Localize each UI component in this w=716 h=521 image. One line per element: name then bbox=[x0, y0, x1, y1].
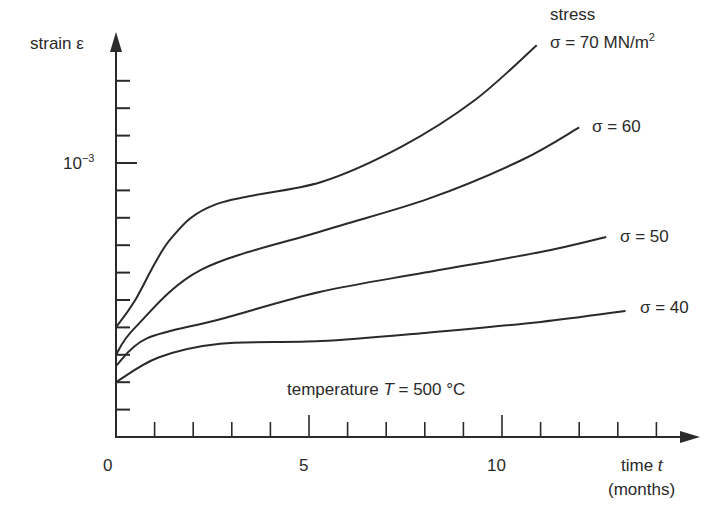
x-axis-arrow-icon bbox=[680, 431, 700, 443]
y-axis-label: strain ε bbox=[30, 34, 84, 54]
y-ticks bbox=[116, 81, 137, 410]
x-tick-label-5: 5 bbox=[299, 456, 308, 476]
creep-curve-1 bbox=[116, 127, 579, 354]
legend-sigma-50: σ = 50 bbox=[620, 227, 669, 247]
y-axis-arrow-icon bbox=[110, 32, 122, 52]
x-axis-label-text: time bbox=[621, 456, 658, 475]
y-tick-base: 10 bbox=[63, 154, 82, 173]
temp-prefix: temperature bbox=[287, 380, 383, 399]
temp-suffix: = 500 °C bbox=[394, 380, 466, 399]
curves bbox=[116, 45, 626, 382]
x-axis-var: t bbox=[658, 456, 663, 475]
legend-sigma-70: σ = 70 MN/m2 bbox=[550, 31, 655, 53]
temp-var: T bbox=[383, 380, 393, 399]
x-axis-unit: (months) bbox=[608, 480, 675, 500]
stress-heading: stress bbox=[550, 5, 595, 25]
sigma-70-text: σ = 70 MN/m bbox=[550, 33, 649, 52]
temperature-annotation: temperature T = 500 °C bbox=[287, 380, 465, 400]
x-tick-label-0: 0 bbox=[103, 456, 112, 476]
creep-curve-2 bbox=[116, 237, 606, 366]
sigma-70-sup: 2 bbox=[649, 31, 655, 43]
creep-curve-3 bbox=[116, 311, 626, 382]
creep-chart bbox=[0, 0, 716, 521]
y-tick-exponent: −3 bbox=[82, 152, 95, 164]
x-ticks bbox=[155, 415, 657, 437]
legend-sigma-60: σ = 60 bbox=[592, 117, 641, 137]
x-tick-label-10: 10 bbox=[487, 456, 506, 476]
y-tick-label-1e-3: 10−3 bbox=[63, 152, 94, 174]
x-axis-label: time t bbox=[621, 456, 663, 476]
legend-sigma-40: σ = 40 bbox=[640, 298, 689, 318]
